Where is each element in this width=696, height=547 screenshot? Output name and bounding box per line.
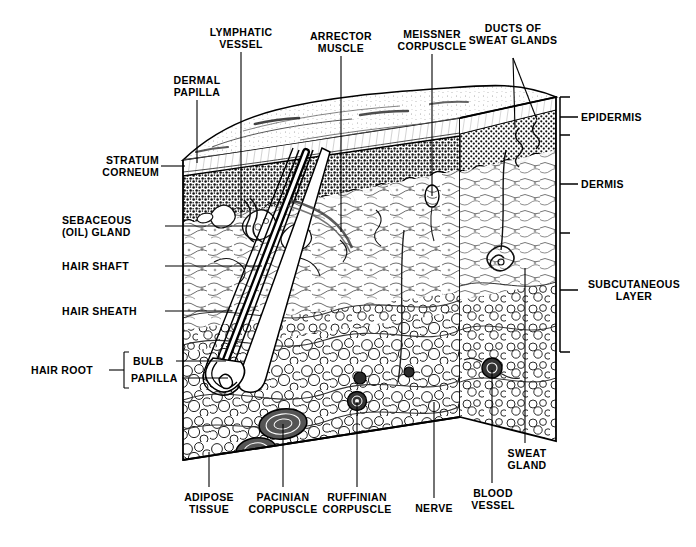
label-ducts-of-sweat-glands: DUCTS OF SWEAT GLANDS: [453, 22, 573, 46]
layer-bracket: [560, 97, 578, 352]
label-nerve: NERVE: [404, 502, 464, 514]
skin-cross-section-diagram: LYMPHATIC VESSEL ARRECTOR MUSCLE MEISSNE…: [0, 0, 696, 547]
label-subcutaneous-layer: SUBCUTANEOUS LAYER: [577, 278, 691, 302]
label-bulb: BULB: [133, 355, 193, 367]
label-stratum-corneum: STRATUM CORNEUM: [61, 154, 159, 178]
label-papilla: PAPILLA: [131, 372, 201, 384]
label-blood-vessel: BLOOD VESSEL: [456, 487, 530, 511]
label-hair-shaft: HAIR SHAFT: [62, 260, 172, 272]
label-hair-root: HAIR ROOT: [31, 364, 111, 376]
skin-block-illustration: [0, 0, 696, 547]
label-sebaceous-gland: SEBACEOUS (OIL) GLAND: [62, 214, 172, 238]
hair-root-brace: [124, 352, 129, 388]
label-dermis: DERMIS: [581, 178, 691, 190]
label-sweat-gland: SWEAT GLAND: [490, 447, 564, 471]
label-dermal-papilla: DERMAL PAPILLA: [149, 74, 245, 98]
label-lymphatic-vessel: LYMPHATIC VESSEL: [193, 26, 289, 50]
label-epidermis: EPIDERMIS: [581, 111, 691, 123]
label-ruffinian-corpuscle: RUFFINIAN CORPUSCLE: [304, 491, 410, 515]
label-arrector-muscle: ARRECTOR MUSCLE: [293, 30, 389, 54]
label-hair-sheath: HAIR SHEATH: [62, 305, 172, 317]
right-face-cross-section: [455, 80, 565, 460]
